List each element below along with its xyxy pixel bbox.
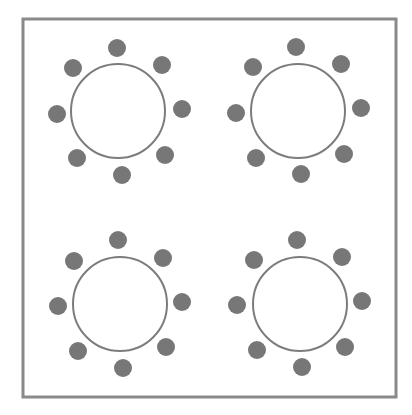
chair-icon [335, 145, 353, 163]
chair-icon [157, 338, 175, 356]
chair-icon [113, 166, 131, 184]
chair-icon [156, 146, 174, 164]
chair-icon [293, 358, 311, 376]
chair-icon [227, 104, 245, 122]
chair-icon [109, 231, 127, 249]
table-bottom-left-group [49, 231, 191, 377]
chair-icon [64, 59, 82, 77]
chair-icon [69, 342, 87, 360]
round-table [71, 64, 165, 158]
chair-icon [244, 58, 262, 76]
chair-icon [153, 56, 171, 74]
round-table [73, 257, 167, 351]
chair-icon [49, 297, 67, 315]
chair-icon [173, 100, 191, 118]
seating-diagram [0, 0, 412, 415]
tables-layer [48, 38, 371, 377]
chair-icon [114, 359, 132, 377]
chair-icon [352, 99, 370, 117]
chair-icon [287, 38, 305, 56]
chair-icon [292, 165, 310, 183]
chair-icon [108, 39, 126, 57]
table-top-left-group [48, 39, 191, 184]
chair-icon [333, 248, 351, 266]
chair-icon [48, 105, 66, 123]
chair-icon [353, 292, 371, 310]
chair-icon [247, 149, 265, 167]
chair-icon [336, 338, 354, 356]
table-bottom-right-group [228, 231, 371, 376]
round-table [253, 257, 347, 351]
table-top-right-group [227, 38, 370, 183]
chair-icon [245, 251, 263, 269]
chair-icon [154, 249, 172, 267]
chair-icon [288, 231, 306, 249]
chair-icon [228, 296, 246, 314]
chair-icon [248, 341, 266, 359]
chair-icon [65, 252, 83, 270]
chair-icon [332, 55, 350, 73]
chair-icon [68, 149, 86, 167]
round-table [251, 64, 345, 158]
chair-icon [173, 293, 191, 311]
